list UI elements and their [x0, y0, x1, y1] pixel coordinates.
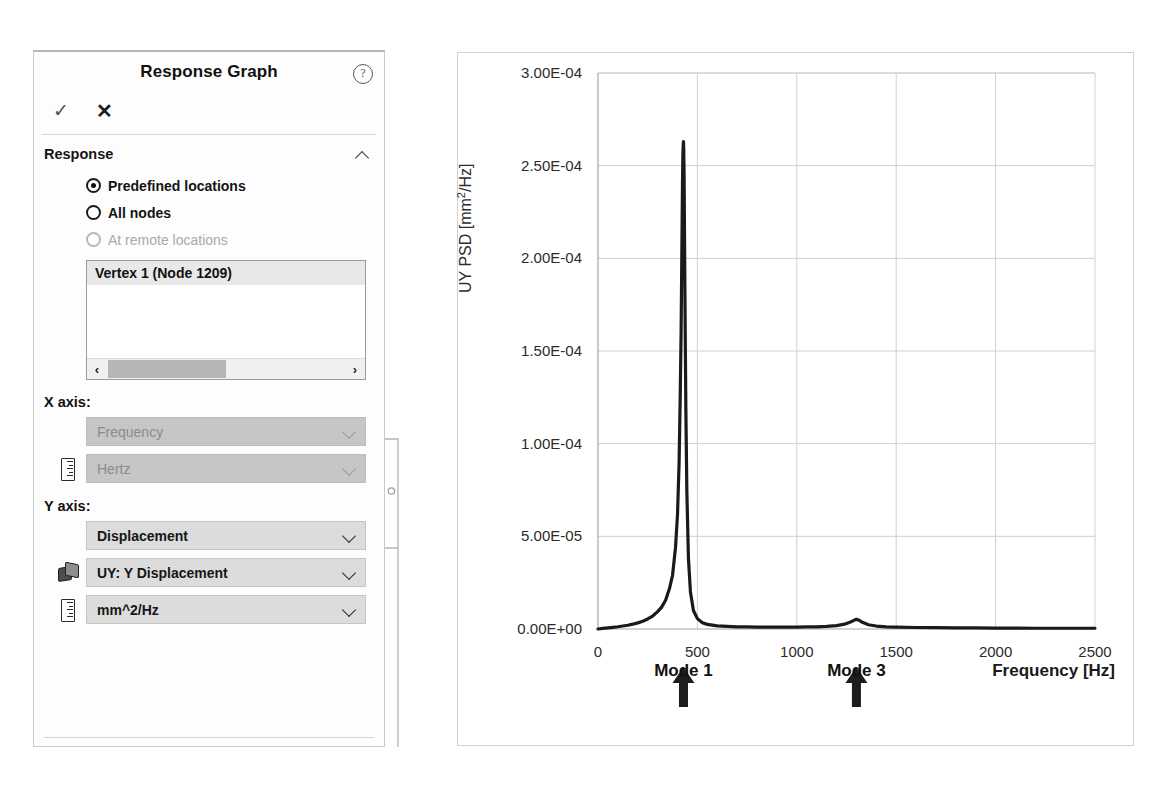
ruler-icon	[52, 456, 86, 482]
dropdown-value: mm^2/Hz	[87, 602, 159, 618]
y-axis-title: UY PSD [mm2/Hz]	[455, 164, 475, 293]
help-circle-icon[interactable]: ?	[353, 64, 373, 84]
location-list-box[interactable]: Vertex 1 (Node 1209) ‹ ›	[86, 260, 366, 380]
chevron-down-icon[interactable]	[344, 531, 355, 542]
y-axis-quantity-dropdown[interactable]: Displacement	[86, 521, 366, 550]
response-graph-chart-panel: 0.00E+005.00E-051.00E-041.50E-042.00E-04…	[457, 52, 1134, 746]
scrollbar-thumb[interactable]	[108, 360, 226, 378]
y-axis-unit-dropdown[interactable]: mm^2/Hz	[86, 595, 366, 624]
horizontal-scrollbar[interactable]: ‹ ›	[87, 358, 365, 379]
radio-button-icon[interactable]	[86, 178, 101, 193]
y-tick-label: 0.00E+00	[517, 620, 582, 637]
scroll-right-icon[interactable]: ›	[345, 362, 365, 377]
dropdown-value: Hertz	[87, 461, 130, 477]
ruler-icon	[52, 597, 86, 623]
chevron-down-icon[interactable]	[344, 605, 355, 616]
response-graph-property-panel: Response Graph ? ✓ ✕ Response Predefined…	[33, 50, 385, 747]
divider	[42, 134, 376, 135]
scroll-left-icon[interactable]: ‹	[87, 362, 107, 377]
y-axis-label: Y axis:	[44, 498, 384, 514]
y-tick-label: 2.50E-04	[521, 157, 582, 174]
x-tick-label: 1500	[880, 643, 913, 660]
x-axis-unit-dropdown: Hertz	[86, 454, 366, 483]
y-tick-label: 3.00E-04	[521, 64, 582, 81]
x-axis-label: X axis:	[44, 394, 384, 410]
annotation-label-mode-1: Mode 1	[654, 661, 713, 681]
accept-button[interactable]: ✓	[46, 96, 76, 126]
result-cube-icon	[52, 560, 86, 586]
y-tick-label: 1.50E-04	[521, 342, 582, 359]
scrollbar-track[interactable]	[227, 360, 345, 378]
radio-button-icon[interactable]	[86, 205, 101, 220]
dropdown-value: Displacement	[87, 528, 188, 544]
x-axis-unit-row: Hertz	[52, 453, 366, 484]
divider	[44, 737, 374, 738]
y-tick-label: 2.00E-04	[521, 249, 582, 266]
y-axis-component-row[interactable]: UY: Y Displacement	[52, 557, 366, 588]
y-axis-unit-row[interactable]: mm^2/Hz	[52, 594, 366, 625]
radio-label: Predefined locations	[108, 178, 246, 194]
section-header-response[interactable]: Response	[44, 141, 374, 171]
y-tick-label: 5.00E-05	[521, 527, 582, 544]
chevron-up-icon[interactable]	[356, 147, 370, 161]
chevron-down-icon	[344, 464, 355, 475]
radio-at-remote-locations: At remote locations	[86, 227, 384, 252]
x-axis-quantity-dropdown: Frequency	[86, 417, 366, 446]
panel-header: Response Graph ?	[34, 52, 384, 96]
chevron-down-icon[interactable]	[344, 568, 355, 579]
x-tick-label: 2000	[979, 643, 1012, 660]
panel-action-bar: ✓ ✕	[34, 96, 384, 134]
cancel-button[interactable]: ✕	[89, 96, 119, 126]
section-title: Response	[44, 141, 374, 167]
list-item[interactable]: Vertex 1 (Node 1209)	[87, 261, 365, 285]
y-axis-quantity-row[interactable]: Displacement	[52, 520, 366, 551]
radio-label: At remote locations	[108, 232, 228, 248]
panel-connector-bracket	[384, 438, 406, 748]
radio-predefined-locations[interactable]: Predefined locations	[86, 173, 384, 198]
radio-button-icon	[86, 232, 101, 247]
y-axis-component-dropdown[interactable]: UY: Y Displacement	[86, 558, 366, 587]
x-tick-label: 0	[594, 643, 602, 660]
x-tick-label: 2500	[1078, 643, 1111, 660]
annotation-label-mode-3: Mode 3	[827, 661, 886, 681]
radio-all-nodes[interactable]: All nodes	[86, 200, 384, 225]
response-graph-plot: 0.00E+005.00E-051.00E-041.50E-042.00E-04…	[458, 53, 1135, 747]
page-title: Response Graph	[34, 62, 384, 82]
dropdown-value: Frequency	[87, 424, 163, 440]
x-tick-label: 500	[685, 643, 710, 660]
y-tick-label: 1.00E-04	[521, 435, 582, 452]
x-axis-quantity-row: Frequency	[52, 416, 366, 447]
chevron-down-icon	[344, 427, 355, 438]
radio-label: All nodes	[108, 205, 171, 221]
data-series-line	[598, 142, 1095, 629]
dropdown-value: UY: Y Displacement	[87, 565, 228, 581]
x-axis-title: Frequency [Hz]	[992, 661, 1115, 681]
x-tick-label: 1000	[780, 643, 813, 660]
